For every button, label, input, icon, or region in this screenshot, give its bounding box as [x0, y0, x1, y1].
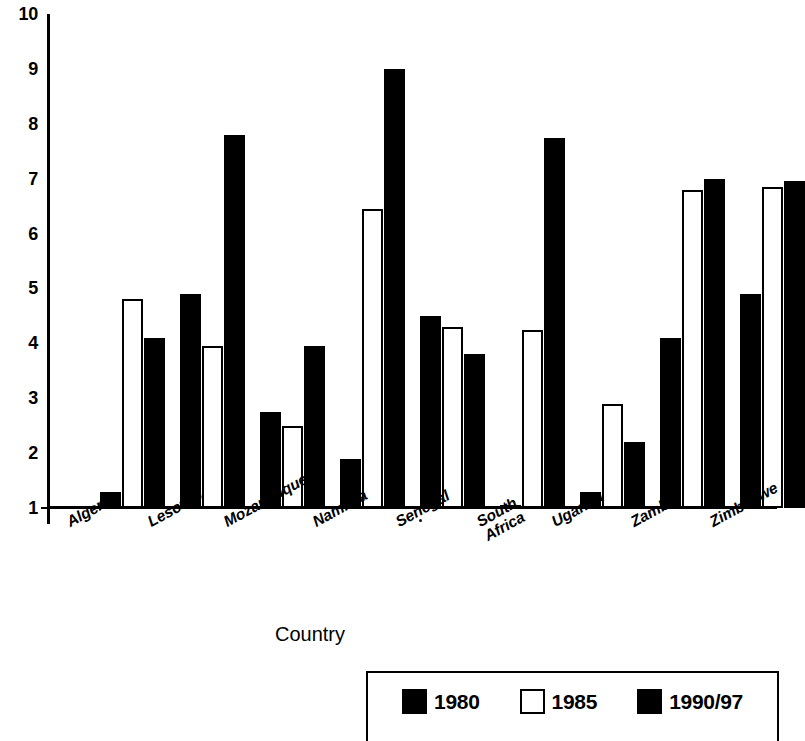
- legend: 198019851990/97: [366, 671, 779, 741]
- legend-swatch-icon: [402, 689, 427, 714]
- y-axis-tick-label: 2: [28, 444, 38, 462]
- bar: [144, 338, 165, 508]
- y-axis-tick-label: 4: [28, 334, 38, 352]
- bar: [180, 294, 201, 508]
- bar: [762, 187, 783, 508]
- bar: [624, 442, 645, 508]
- legend-swatch-icon: [637, 689, 662, 714]
- legend-item: 1980: [402, 689, 480, 714]
- bar-group: [180, 14, 245, 508]
- bar-group: [420, 14, 485, 508]
- x-axis-title: Country: [0, 624, 620, 644]
- y-axis-tick-label: 7: [28, 170, 38, 188]
- bar-group: [580, 14, 645, 508]
- bar: [420, 316, 441, 508]
- bar-group: [100, 14, 165, 508]
- bar: [660, 338, 681, 508]
- y-axis-tick-label: 6: [28, 225, 38, 243]
- bar: [362, 209, 383, 508]
- bar: [602, 404, 623, 508]
- bar: [224, 135, 245, 508]
- y-axis-tick-label: 1: [28, 499, 38, 517]
- bar: [442, 327, 463, 508]
- y-axis-tick-label: 3: [28, 389, 38, 407]
- legend-swatch-icon: [520, 689, 545, 714]
- legend-item: 1985: [520, 689, 598, 714]
- bar: [522, 330, 543, 508]
- bar-group: [500, 14, 565, 508]
- bar: [122, 299, 143, 508]
- bar-group: [260, 14, 325, 508]
- legend-label: 1985: [552, 691, 598, 712]
- bar-group: [740, 14, 805, 508]
- y-axis-tick-mark: [41, 507, 50, 509]
- y-axis-tick-labels: 10987654321: [0, 0, 44, 530]
- bar: [784, 181, 805, 508]
- legend-item: 1990/97: [637, 689, 743, 714]
- bar-group: [660, 14, 725, 508]
- bar: [682, 190, 703, 508]
- y-axis-tick-label: 8: [28, 115, 38, 133]
- bar-group: [340, 14, 405, 508]
- bar: [740, 294, 761, 508]
- y-axis-tick-label: 10: [18, 5, 38, 23]
- legend-label: 1980: [434, 691, 480, 712]
- bar: [464, 354, 485, 508]
- y-axis-tick-label: 5: [28, 279, 38, 297]
- y-axis-tick-label: 9: [28, 60, 38, 78]
- bar: [202, 346, 223, 508]
- legend-label: 1990/97: [669, 691, 743, 712]
- bar: [384, 69, 405, 508]
- bar: [704, 179, 725, 508]
- bar: [544, 138, 565, 509]
- scan-artifact-speck: [419, 519, 422, 522]
- plot-area: [50, 14, 777, 508]
